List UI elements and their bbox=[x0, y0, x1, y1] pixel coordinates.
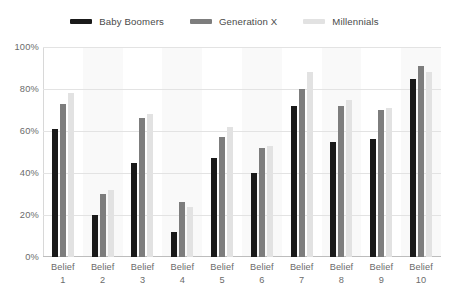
x-tick-number: 9 bbox=[361, 274, 401, 287]
x-tick-word: Belief bbox=[409, 262, 433, 272]
bar[interactable] bbox=[108, 190, 114, 257]
bar[interactable] bbox=[426, 72, 432, 257]
x-axis-tick-label: Belief3 bbox=[123, 261, 163, 287]
bar-group bbox=[123, 47, 163, 257]
bar[interactable] bbox=[60, 104, 66, 257]
bar-group bbox=[43, 47, 83, 257]
bar-group bbox=[162, 47, 202, 257]
bar[interactable] bbox=[219, 137, 225, 257]
x-axis-tick-label: Belief9 bbox=[361, 261, 401, 287]
bar[interactable] bbox=[179, 202, 185, 257]
bar[interactable] bbox=[52, 129, 58, 257]
y-axis-tick-label: 60% bbox=[3, 126, 39, 136]
bar[interactable] bbox=[410, 79, 416, 258]
x-tick-number: 3 bbox=[123, 274, 163, 287]
bar[interactable] bbox=[370, 139, 376, 257]
x-axis-tick-label: Belief4 bbox=[162, 261, 202, 287]
legend-label: Millennials bbox=[332, 16, 378, 27]
x-axis-ticks: Belief1Belief2Belief3Belief4Belief5Belie… bbox=[43, 261, 441, 287]
bar-groups bbox=[43, 47, 441, 257]
bar[interactable] bbox=[386, 108, 392, 257]
bar[interactable] bbox=[187, 207, 193, 257]
bar[interactable] bbox=[68, 93, 74, 257]
y-axis-tick-label: 80% bbox=[3, 84, 39, 94]
x-axis-tick-label: Belief10 bbox=[401, 261, 441, 287]
legend-entry[interactable]: Baby Boomers bbox=[70, 16, 164, 27]
legend-entry[interactable]: Millennials bbox=[303, 16, 378, 27]
x-tick-word: Belief bbox=[369, 262, 393, 272]
bar-group bbox=[202, 47, 242, 257]
x-tick-number: 6 bbox=[242, 274, 282, 287]
x-axis-tick-label: Belief6 bbox=[242, 261, 282, 287]
x-tick-word: Belief bbox=[91, 262, 115, 272]
chart-legend: Baby BoomersGeneration XMillennials bbox=[0, 10, 449, 32]
bar-group bbox=[401, 47, 441, 257]
bar-group bbox=[282, 47, 322, 257]
x-axis-tick-label: Belief1 bbox=[43, 261, 83, 287]
bar[interactable] bbox=[100, 194, 106, 257]
y-axis-tick-label: 40% bbox=[3, 168, 39, 178]
legend-entry[interactable]: Generation X bbox=[190, 16, 277, 27]
bar[interactable] bbox=[291, 106, 297, 257]
x-tick-word: Belief bbox=[290, 262, 314, 272]
bar[interactable] bbox=[211, 158, 217, 257]
legend-label: Baby Boomers bbox=[99, 16, 164, 27]
x-tick-word: Belief bbox=[131, 262, 155, 272]
bar[interactable] bbox=[92, 215, 98, 257]
x-axis-tick-label: Belief7 bbox=[282, 261, 322, 287]
bar[interactable] bbox=[259, 148, 265, 257]
bar[interactable] bbox=[418, 66, 424, 257]
bar[interactable] bbox=[378, 110, 384, 257]
x-tick-number: 2 bbox=[83, 274, 123, 287]
bar-group bbox=[322, 47, 362, 257]
x-tick-word: Belief bbox=[51, 262, 75, 272]
y-axis-tick-label: 100% bbox=[3, 42, 39, 52]
bar[interactable] bbox=[267, 146, 273, 257]
x-tick-word: Belief bbox=[250, 262, 274, 272]
bar[interactable] bbox=[330, 142, 336, 258]
bar[interactable] bbox=[299, 89, 305, 257]
bar[interactable] bbox=[139, 118, 145, 257]
legend-swatch-icon bbox=[70, 19, 92, 24]
x-tick-number: 8 bbox=[322, 274, 362, 287]
bar[interactable] bbox=[346, 100, 352, 258]
x-tick-word: Belief bbox=[330, 262, 354, 272]
bar[interactable] bbox=[251, 173, 257, 257]
bar[interactable] bbox=[131, 163, 137, 258]
bar-chart: Baby BoomersGeneration XMillennials 100%… bbox=[0, 0, 449, 305]
x-tick-number: 1 bbox=[43, 274, 83, 287]
x-tick-number: 4 bbox=[162, 274, 202, 287]
bar[interactable] bbox=[227, 127, 233, 257]
legend-swatch-icon bbox=[190, 19, 212, 24]
y-axis-tick-label: 0% bbox=[3, 252, 39, 262]
x-axis-tick-label: Belief5 bbox=[202, 261, 242, 287]
x-tick-word: Belief bbox=[210, 262, 234, 272]
y-axis-ticks: 100%80%60%40%20%0% bbox=[0, 47, 39, 257]
bar[interactable] bbox=[338, 106, 344, 257]
bar-group bbox=[361, 47, 401, 257]
legend-label: Generation X bbox=[219, 16, 277, 27]
bar[interactable] bbox=[171, 232, 177, 257]
legend-swatch-icon bbox=[303, 19, 325, 24]
x-axis-tick-label: Belief2 bbox=[83, 261, 123, 287]
x-tick-number: 10 bbox=[401, 274, 441, 287]
x-tick-number: 7 bbox=[282, 274, 322, 287]
bar[interactable] bbox=[307, 72, 313, 257]
y-axis-tick-label: 20% bbox=[3, 210, 39, 220]
bar[interactable] bbox=[147, 114, 153, 257]
x-tick-number: 5 bbox=[202, 274, 242, 287]
x-axis-tick-label: Belief8 bbox=[322, 261, 362, 287]
x-tick-word: Belief bbox=[170, 262, 194, 272]
bar-group bbox=[242, 47, 282, 257]
bar-group bbox=[83, 47, 123, 257]
